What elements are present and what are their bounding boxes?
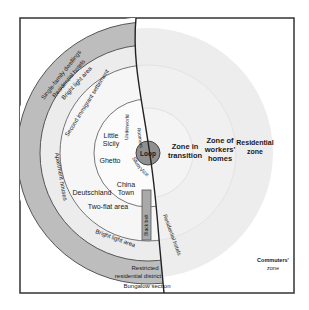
- restricted-label-1: Restricted: [131, 265, 158, 271]
- workers-label-3: homes: [208, 154, 232, 163]
- china-town-label-1: China: [117, 181, 135, 188]
- commuters-label-1: Commuters': [257, 257, 290, 263]
- little-sicily-label-1: Little: [104, 132, 119, 139]
- transition-label-2: transition: [168, 151, 203, 160]
- transition-label-1: Zone in: [172, 142, 199, 151]
- workers-label-2: workers': [204, 145, 236, 154]
- loop-label: Loop: [140, 150, 156, 158]
- deutschland-label: Deutschland: [73, 189, 112, 196]
- residential-label-1: Residential: [236, 139, 273, 146]
- concentric-zone-diagram: Loop Zone in transition Zone of workers'…: [0, 0, 309, 310]
- black-belt-label: Black belt: [143, 214, 149, 236]
- china-town-label-2: Town: [118, 189, 134, 196]
- restricted-label-2: residential district: [115, 273, 162, 279]
- residential-label-2: zone: [247, 148, 263, 155]
- ghetto-label: Ghetto: [99, 157, 120, 164]
- underworld-label: Underworld: [123, 114, 130, 140]
- workers-label-1: Zone of: [206, 136, 234, 145]
- little-sicily-label-2: Sicily: [103, 140, 120, 148]
- bungalow-label: Bungalow section: [123, 283, 170, 289]
- two-flat-label: Two-flat area: [88, 203, 129, 210]
- commuters-label-2: zone: [267, 265, 279, 271]
